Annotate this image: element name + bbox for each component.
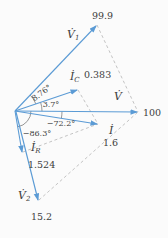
phasor-vectors xyxy=(15,26,137,200)
label-v2: V̇2 xyxy=(18,189,31,203)
angle-label-i: −72.2° xyxy=(47,119,76,128)
vector-v xyxy=(15,111,137,112)
value-v2: 15.2 xyxy=(31,211,52,222)
label-v: V̇ xyxy=(114,90,123,103)
label-ir-subscript: R xyxy=(34,147,41,155)
value-ic: 0.383 xyxy=(84,69,111,80)
label-v-symbol: V̇ xyxy=(114,90,123,103)
label-ic: İC xyxy=(69,69,80,84)
angle-label-ic: 3.7° xyxy=(43,100,60,109)
value-ir: 1.524 xyxy=(28,159,55,170)
dashed-ic-to-i xyxy=(78,90,98,124)
label-v1-subscript: 1 xyxy=(75,34,79,42)
angle-label-ir: −86.3° xyxy=(23,129,52,138)
value-v1: 99.9 xyxy=(92,10,113,21)
label-ic-subscript: C xyxy=(74,76,80,84)
phasor-diagram: 99.9 0.383 100 1.6 1.524 15.2 8.76° 3.7°… xyxy=(0,0,168,238)
construction-lines xyxy=(23,25,138,200)
label-i: İ xyxy=(108,123,114,137)
value-i: 1.6 xyxy=(103,137,118,148)
value-v: 100 xyxy=(143,107,161,118)
label-i-symbol: İ xyxy=(108,123,114,137)
label-v2-subscript: 2 xyxy=(25,195,31,203)
vector-v2 xyxy=(16,112,38,200)
label-ir: İR xyxy=(30,140,41,155)
label-v1: V̇1 xyxy=(67,28,79,42)
phasor-diagram-canvas: 99.9 0.383 100 1.6 1.524 15.2 8.76° 3.7°… xyxy=(0,0,168,238)
arc-angle-i xyxy=(61,111,62,118)
